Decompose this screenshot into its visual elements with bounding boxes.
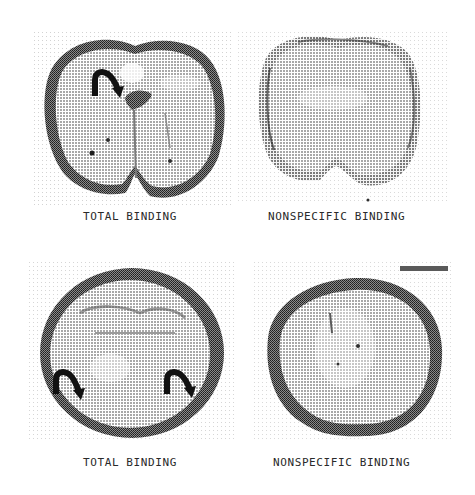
panel-top-right: [238, 28, 453, 208]
caption-top-right: NONSPECIFIC BINDING: [268, 210, 405, 223]
brain-section-image: [30, 28, 240, 208]
caption-top-left: TOTAL BINDING: [83, 210, 177, 223]
panel-bottom-right: [250, 258, 460, 448]
brain-section-image: [250, 258, 460, 448]
brain-section-image: [25, 258, 240, 448]
panel-top-left: [30, 28, 240, 208]
caption-bottom-right: NONSPECIFIC BINDING: [273, 456, 410, 469]
caption-bottom-left: TOTAL BINDING: [83, 456, 177, 469]
brain-section-image: [238, 28, 453, 208]
panel-bottom-left: [25, 258, 240, 448]
inner-tissue: [50, 280, 210, 428]
